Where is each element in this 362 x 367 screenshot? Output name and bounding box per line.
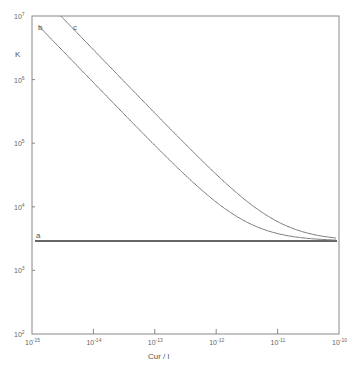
y-tick-label: 105 <box>14 138 25 147</box>
y-axis-title: K <box>15 50 21 59</box>
curve-b <box>39 26 336 240</box>
y-tick-label: 103 <box>14 265 25 274</box>
x-tick-label: 10-10 <box>332 337 347 346</box>
curves <box>35 16 337 241</box>
x-tick-label: 10-12 <box>209 337 224 346</box>
x-axis-title: Cur / l <box>148 352 170 361</box>
curve-label-a: a <box>36 231 41 240</box>
x-tick-label: 10-14 <box>86 337 101 346</box>
x-tick-label: 10-11 <box>271 337 286 346</box>
x-tick-label: 10-15 <box>25 337 40 346</box>
curve-label-b: b <box>38 23 43 32</box>
curve-c <box>61 16 336 238</box>
y-tick-label: 107 <box>14 11 25 20</box>
y-tick-label: 104 <box>14 202 25 211</box>
x-axis-ticks: 10-1510-1410-1310-1210-1110-10 <box>25 329 347 346</box>
y-tick-label: 106 <box>14 75 25 84</box>
curve-labels: abc <box>36 23 77 240</box>
curve-label-c: c <box>73 23 77 32</box>
x-tick-label: 10-13 <box>148 337 163 346</box>
chart: 10-1510-1410-1310-1210-1110-10 102103104… <box>0 0 362 367</box>
y-tick-label: 102 <box>14 329 25 338</box>
